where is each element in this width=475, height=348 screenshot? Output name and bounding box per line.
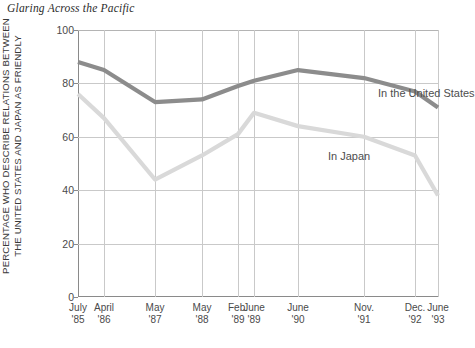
x-tick-year-6: '90	[287, 314, 309, 326]
x-tick-label-9: June'93	[427, 302, 449, 325]
series-label-united-states: In the United States	[378, 87, 475, 99]
x-tick-label-1: April'86	[94, 302, 114, 325]
x-tick-year-8: '92	[405, 314, 426, 326]
series-line-japan	[78, 94, 438, 195]
x-tick-month-9: June	[427, 302, 449, 314]
y-tick-label-100: 100	[56, 24, 74, 36]
y-tick-label-40: 40	[62, 184, 74, 196]
series-label-japan: In Japan	[328, 150, 370, 162]
x-tick-year-0: '85	[69, 314, 87, 326]
data-lines	[78, 30, 438, 297]
chart-plot-area: 020406080100 July'85April'86May'87May'88…	[78, 30, 438, 297]
y-tick-label-20: 20	[62, 238, 74, 250]
x-tick-year-2: '87	[146, 314, 165, 326]
y-axis-title-line2: THE UNITED STATES AND JAPAN AS FRIENDLY	[12, 0, 23, 320]
x-tick-month-2: May	[146, 302, 165, 314]
x-tick-label-3: May'88	[193, 302, 212, 325]
x-tick-year-3: '88	[193, 314, 212, 326]
x-tick-label-5: June'89	[243, 302, 265, 325]
y-tick-label-80: 80	[62, 77, 74, 89]
x-tick-year-1: '86	[94, 314, 114, 326]
x-tick-year-9: '93	[427, 314, 449, 326]
x-tick-month-6: June	[287, 302, 309, 314]
x-tick-year-7: '91	[354, 314, 374, 326]
x-tick-month-7: Nov.	[354, 302, 374, 314]
x-tick-month-3: May	[193, 302, 212, 314]
x-tick-month-5: June	[243, 302, 265, 314]
x-tick-label-7: Nov.'91	[354, 302, 374, 325]
y-tick-label-60: 60	[62, 131, 74, 143]
y-axis-title-line1: PERCENTAGE WHO DESCRIBE RELATIONS BETWEE…	[0, 0, 11, 320]
x-tick-month-8: Dec.	[405, 302, 426, 314]
y-axis-title: PERCENTAGE WHO DESCRIBE RELATIONS BETWEE…	[0, 0, 40, 320]
x-tick-year-5: '89	[243, 314, 265, 326]
y-tick-mark-0	[74, 297, 78, 298]
x-tick-label-0: July'85	[69, 302, 87, 325]
x-tick-label-2: May'87	[146, 302, 165, 325]
x-tick-month-0: July	[69, 302, 87, 314]
x-tick-label-8: Dec.'92	[405, 302, 426, 325]
series-line-united-states	[78, 62, 438, 107]
x-tick-label-6: June'90	[287, 302, 309, 325]
gridline-x-9	[438, 30, 439, 297]
x-tick-month-1: April	[94, 302, 114, 314]
